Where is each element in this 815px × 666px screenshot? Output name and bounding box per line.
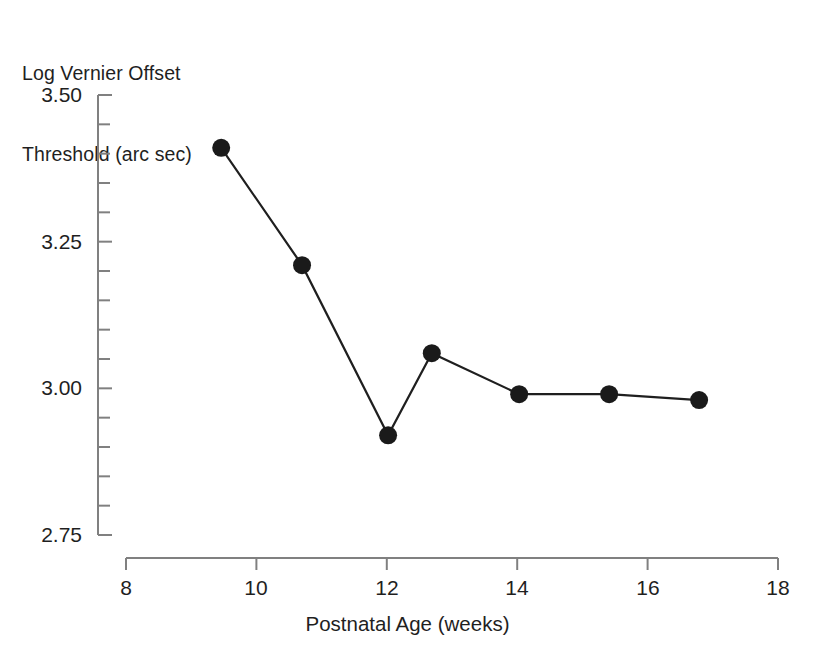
series-line <box>221 148 699 435</box>
data-series-group <box>212 139 708 444</box>
data-point-marker <box>379 426 397 444</box>
y-axis-ticks <box>98 95 112 535</box>
series-markers <box>212 139 708 444</box>
data-point-marker <box>600 385 618 403</box>
x-axis-ticks <box>126 558 778 570</box>
plot-area <box>0 0 815 666</box>
data-point-marker <box>690 391 708 409</box>
x-axis <box>126 558 778 570</box>
data-point-marker <box>510 385 528 403</box>
y-axis <box>98 95 112 535</box>
data-point-marker <box>293 256 311 274</box>
data-point-marker <box>423 344 441 362</box>
chart-figure: Log Vernier Offset Threshold (arc sec) 3… <box>0 0 815 666</box>
data-point-marker <box>212 139 230 157</box>
